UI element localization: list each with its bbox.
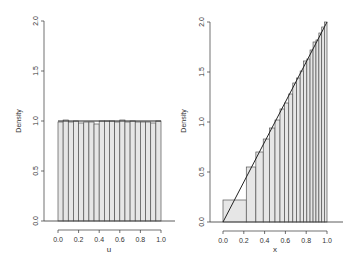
histogram-bar	[307, 59, 310, 222]
y-tick-label: 0.0	[32, 216, 39, 226]
x-tick-label: 0.0	[53, 236, 63, 243]
histogram-bar	[115, 122, 120, 221]
histogram-bar	[110, 121, 115, 221]
histogram-bar	[322, 27, 325, 222]
histogram-bar	[58, 122, 63, 221]
y-tick-label: 1.5	[32, 66, 39, 76]
histogram-bar	[146, 122, 151, 221]
y-tick-label: 2.0	[32, 16, 39, 26]
y-tick-label: 1.0	[32, 116, 39, 126]
chart-canvas: 0.00.51.01.52.00.00.20.40.60.81.0 0.00.5…	[0, 0, 357, 266]
histogram-bar	[73, 121, 78, 221]
histogram-bar	[275, 120, 280, 222]
histogram-bar	[313, 42, 316, 222]
y-tick-label: 1.5	[198, 67, 205, 77]
y-tick-label: 0.0	[198, 217, 205, 227]
histogram-bar	[297, 78, 301, 222]
histogram-bar	[120, 120, 125, 221]
histogram-bar	[104, 121, 109, 221]
y-tick-label: 1.0	[198, 117, 205, 127]
x-tick-label: 1.0	[156, 236, 166, 243]
histogram-bar	[151, 123, 156, 221]
histogram-bar	[89, 122, 94, 221]
histogram-bar	[285, 103, 289, 222]
histogram-panel-x: 0.00.51.01.52.00.00.20.40.60.81.0	[198, 17, 343, 244]
histogram-bar	[84, 122, 89, 221]
x-tick-label: 0.4	[260, 237, 270, 244]
y-axis-label-right: Density	[180, 109, 188, 133]
histogram-bar	[319, 33, 322, 222]
histogram-bar	[280, 109, 285, 222]
histogram-bar	[293, 83, 297, 222]
x-tick-label: 1.0	[322, 237, 332, 244]
histogram-bar	[125, 122, 130, 221]
x-axis-label-left: u	[107, 245, 111, 254]
x-tick-label: 0.4	[94, 236, 104, 243]
histogram-panel-u: 0.00.51.01.52.00.00.20.40.60.81.0	[32, 16, 175, 243]
x-tick-label: 0.8	[136, 236, 146, 243]
y-tick-label: 2.0	[198, 17, 205, 27]
histogram-bar	[79, 123, 84, 221]
histogram-bar	[223, 200, 246, 222]
x-tick-label: 0.8	[301, 237, 311, 244]
histogram-bar	[256, 152, 263, 222]
histogram-bar	[316, 40, 319, 222]
histogram-bar	[135, 122, 140, 221]
histogram-bar	[263, 139, 269, 222]
y-axis-label-left: Density	[15, 109, 23, 133]
x-tick-label: 0.6	[115, 236, 125, 243]
x-tick-label: 0.0	[218, 237, 228, 244]
histogram-bar	[156, 121, 161, 221]
histogram-bar	[324, 22, 327, 222]
histogram-bar	[99, 121, 104, 221]
x-axis-label-right: x	[273, 245, 277, 254]
histogram-bar	[289, 94, 293, 222]
x-tick-label: 0.2	[74, 236, 84, 243]
x-tick-label: 0.2	[239, 237, 249, 244]
histogram-bar	[63, 120, 68, 221]
histogram-bar	[68, 122, 73, 221]
histogram-bar	[304, 61, 307, 222]
x-tick-label: 0.6	[281, 237, 291, 244]
y-tick-label: 0.5	[32, 166, 39, 176]
histogram-bar	[94, 124, 99, 221]
histogram-bar	[130, 121, 135, 221]
histogram-bar	[140, 122, 145, 221]
histogram-bar	[269, 128, 275, 222]
y-tick-label: 0.5	[198, 167, 205, 177]
histogram-bar	[310, 50, 313, 222]
histogram-bar	[300, 71, 303, 222]
